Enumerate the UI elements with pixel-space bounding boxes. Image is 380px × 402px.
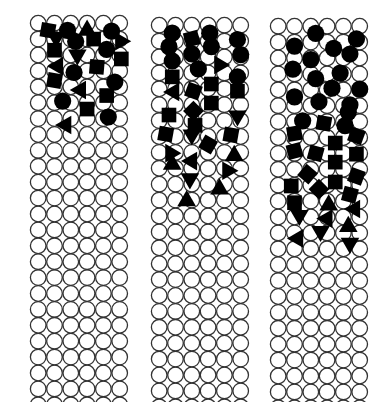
filled-circle-shape: [307, 70, 324, 87]
grid-circle: [287, 289, 303, 305]
grid-circle: [63, 143, 79, 159]
grid-circle: [112, 318, 128, 334]
grid-circle: [63, 397, 79, 402]
grid-circle: [233, 351, 249, 367]
filled-square-shape: [315, 115, 332, 132]
grid-circle: [233, 224, 249, 240]
grid-circle: [352, 305, 368, 321]
grid-circle: [287, 18, 303, 34]
grid-circle: [151, 383, 167, 399]
grid-circle: [319, 289, 335, 305]
grid-circle: [63, 174, 79, 190]
grid-circle: [79, 397, 95, 402]
grid-circle: [270, 241, 286, 257]
grid-circle: [200, 192, 216, 208]
filled-triangle-shape: [287, 229, 303, 248]
grid-circle: [30, 238, 46, 254]
grid-circle: [30, 159, 46, 175]
grid-circle: [47, 365, 63, 381]
grid-circle: [200, 240, 216, 256]
grid-circle: [319, 273, 335, 289]
grid-circle: [47, 143, 63, 159]
grid-circle: [63, 238, 79, 254]
grid-circle: [217, 192, 233, 208]
filled-square-shape: [341, 186, 359, 204]
grid-circle: [112, 174, 128, 190]
grid-circle: [270, 289, 286, 305]
grid-circle: [319, 336, 335, 352]
filled-triangle-shape: [225, 145, 244, 161]
grid-circle: [112, 397, 128, 402]
grid-circle: [270, 177, 286, 193]
grid-circle: [112, 95, 128, 111]
grid-circle: [151, 192, 167, 208]
grid-circle: [112, 190, 128, 206]
grid-circle: [217, 304, 233, 320]
grid-circle: [79, 159, 95, 175]
grid-circle: [184, 208, 200, 224]
filled-circle-shape: [183, 45, 200, 62]
grid-circle: [151, 145, 167, 161]
grid-circle: [352, 368, 368, 384]
grid-circle: [319, 257, 335, 273]
filled-square-shape: [204, 96, 219, 111]
grid-circle: [151, 81, 167, 97]
grid-circle: [233, 208, 249, 224]
filled-square-shape: [287, 195, 302, 210]
grid-circle: [151, 351, 167, 367]
grid-circle: [352, 336, 368, 352]
grid-circle: [63, 206, 79, 222]
grid-circle: [200, 161, 216, 177]
grid-circle: [63, 318, 79, 334]
grid-circle: [63, 222, 79, 238]
grid-circle: [168, 256, 184, 272]
grid-circle: [303, 368, 319, 384]
grid-circle: [303, 273, 319, 289]
grid-circle: [336, 305, 352, 321]
filled-circle-shape: [164, 52, 181, 69]
grid-circle: [30, 302, 46, 318]
grid-circle: [352, 321, 368, 337]
grid-circle: [63, 190, 79, 206]
grid-circle: [168, 272, 184, 288]
grid-circle: [63, 302, 79, 318]
grid-circle: [336, 368, 352, 384]
grid-circle: [30, 397, 46, 402]
grid-circle: [184, 383, 200, 399]
grid-circle: [112, 302, 128, 318]
grid-circle: [168, 320, 184, 336]
grid-circle: [79, 206, 95, 222]
grid-circle: [168, 351, 184, 367]
grid-circle: [233, 320, 249, 336]
grid-circle: [79, 318, 95, 334]
grid-circle: [47, 286, 63, 302]
grid-circle: [217, 335, 233, 351]
filled-square-shape: [222, 126, 239, 143]
grid-circle: [217, 208, 233, 224]
grid-circle: [151, 367, 167, 383]
grid-circle: [112, 238, 128, 254]
grid-circle: [47, 222, 63, 238]
grid-circle: [96, 397, 112, 402]
grid-circle: [30, 333, 46, 349]
grid-circle: [184, 351, 200, 367]
grid-circle: [303, 257, 319, 273]
grid-circle: [319, 352, 335, 368]
grid-circle: [112, 270, 128, 286]
grid-circle: [217, 17, 233, 33]
grid-circle: [112, 254, 128, 270]
grid-circle: [200, 367, 216, 383]
grid-circle: [30, 318, 46, 334]
grid-circle: [79, 302, 95, 318]
grid-circle: [270, 352, 286, 368]
grid-circle: [96, 222, 112, 238]
filled-square-shape: [349, 147, 364, 162]
grid-circle: [184, 335, 200, 351]
grid-circle: [184, 367, 200, 383]
filled-circle-shape: [284, 61, 301, 78]
grid-circle: [200, 383, 216, 399]
grid-circle: [287, 384, 303, 400]
grid-circle: [168, 288, 184, 304]
grid-circle: [112, 127, 128, 143]
grid-circle: [47, 270, 63, 286]
